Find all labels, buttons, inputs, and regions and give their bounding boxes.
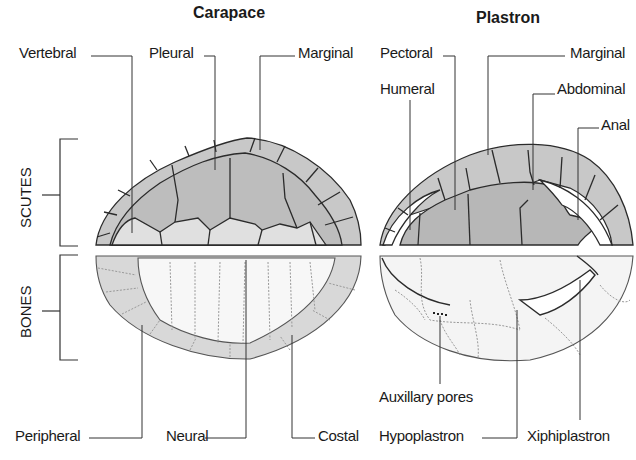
plastron-scutes: [380, 144, 633, 245]
bones-bracket: [42, 255, 78, 360]
leader-lines: [89, 56, 599, 438]
carapace-scutes: [96, 138, 361, 245]
plastron-bones: [380, 256, 633, 361]
carapace-bones: [96, 256, 361, 359]
scutes-bracket: [42, 139, 78, 246]
turtle-shell-diagram: [0, 0, 636, 460]
